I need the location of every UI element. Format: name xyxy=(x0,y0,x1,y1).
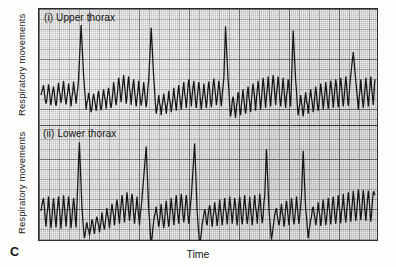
y-axis-label-lower: Respiratory movements xyxy=(16,126,27,240)
trace-svg xyxy=(39,9,377,241)
x-axis-label: Time xyxy=(0,248,396,260)
panel-title-lower-thorax: (ii) Lower thorax xyxy=(43,128,116,139)
trace-lower-thorax xyxy=(41,142,375,240)
plot-area: (i) Upper thorax (ii) Lower thorax xyxy=(38,8,378,241)
panel-title-upper-thorax: (i) Upper thorax xyxy=(44,12,115,23)
y-axis-label-upper: Respiratory movements xyxy=(16,8,27,122)
respiratory-chart-figure: Respiratory movements Respiratory moveme… xyxy=(0,0,396,267)
trace-upper-thorax xyxy=(41,25,375,118)
